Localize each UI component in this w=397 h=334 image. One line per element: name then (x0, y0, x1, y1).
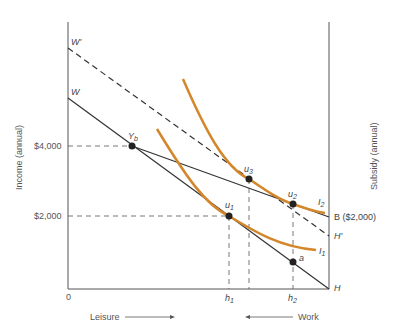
label-H: H (334, 283, 341, 293)
tick-h1: h1 (225, 293, 234, 304)
label-u3: u3 (244, 164, 253, 175)
tick-zero: 0 (66, 292, 71, 302)
tick-h2: h2 (288, 293, 297, 304)
indifference-curve-I2 (183, 79, 325, 213)
label-W: W (71, 87, 81, 97)
arrow-leisure-head (170, 315, 175, 319)
point-u2 (290, 201, 297, 208)
tick-2000: $2,000 (34, 211, 62, 221)
budget-line-WpHp (68, 48, 329, 236)
ylabel-subsidy: Subsidy (annual) (369, 122, 379, 190)
point-u1 (226, 213, 233, 220)
point-a (290, 259, 297, 266)
label-Yb: Yb (128, 131, 138, 142)
xlabel-leisure: Leisure (90, 312, 120, 322)
tick-4000: $4,000 (34, 141, 62, 151)
label-I1: I1 (319, 246, 326, 257)
ylabel-income: Income (annual) (14, 125, 24, 190)
label-u2: u2 (288, 189, 297, 200)
label-Wp: W' (71, 37, 81, 47)
label-a: a (299, 253, 304, 263)
label-I2: I2 (318, 197, 325, 208)
xlabel-work: Work (298, 312, 319, 322)
arrow-work-head (245, 315, 250, 319)
labor-supply-diagram: W' W Yb u3 u2 u1 I2 I1 a B ($2,000) H' H… (0, 0, 397, 334)
label-B: B ($2,000) (334, 212, 376, 222)
label-Hp: H' (334, 231, 342, 241)
point-Yb (129, 143, 136, 150)
label-u1: u1 (225, 200, 234, 211)
point-u3 (246, 176, 253, 183)
